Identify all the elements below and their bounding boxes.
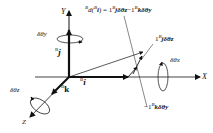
equation-label: Bd(Bi) = 1Bjδθz−1Bkδθy bbox=[85, 7, 152, 14]
k-term-label: −1Bkδθy bbox=[144, 104, 168, 111]
equation-leader-line bbox=[124, 16, 147, 107]
rotation-x-label: δθx bbox=[170, 57, 180, 64]
unit-vector-j-label: Bj bbox=[55, 48, 61, 57]
diagram-graphics bbox=[0, 0, 213, 133]
j-term-label: 1Bjδθz bbox=[155, 36, 173, 43]
z-axis-label: Z bbox=[22, 119, 26, 126]
unit-vector-i-label: Bi bbox=[80, 78, 86, 87]
diagram-canvas: Y X Z Bj Bi Bk δθy δθx δθz Bd(Bi) = 1Bjδ… bbox=[0, 0, 213, 133]
component-j-vector bbox=[133, 56, 142, 74]
y-axis-label: Y bbox=[61, 8, 65, 16]
unit-vector-k-label: Bk bbox=[61, 85, 69, 94]
rotation-y-label: δθy bbox=[37, 31, 47, 38]
rotation-x-arrow-icon bbox=[161, 62, 162, 65]
component-k-vector bbox=[128, 67, 137, 77]
x-axis-label: X bbox=[202, 73, 207, 81]
rotation-z-label: δθz bbox=[10, 87, 19, 94]
